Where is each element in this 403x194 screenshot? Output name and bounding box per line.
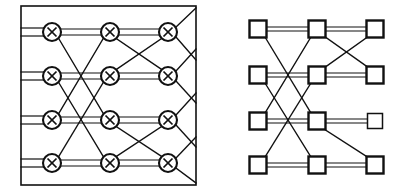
switch-node[interactable]: [309, 157, 326, 174]
switch-node[interactable]: [250, 113, 267, 130]
switch-node[interactable]: [43, 111, 61, 129]
left-network: [21, 6, 196, 185]
switch-node[interactable]: [367, 157, 384, 174]
network-diagram-svg: [0, 0, 403, 194]
switch-node[interactable]: [101, 67, 119, 85]
switch-node[interactable]: [43, 154, 61, 172]
switch-node[interactable]: [101, 23, 119, 41]
switch-node[interactable]: [250, 21, 267, 38]
switch-node[interactable]: [43, 67, 61, 85]
switch-node[interactable]: [367, 21, 384, 38]
switch-node[interactable]: [250, 67, 267, 84]
stage2-edges: [117, 29, 161, 166]
right-network: [250, 21, 384, 174]
stage1-edges: [59, 29, 103, 166]
switch-node[interactable]: [309, 21, 326, 38]
switch-node[interactable]: [43, 23, 61, 41]
external-input-lines: [21, 28, 44, 167]
stage1-edges: [265, 27, 311, 167]
figure-canvas: [0, 0, 403, 194]
switch-node[interactable]: [367, 67, 384, 84]
switch-node[interactable]: [159, 154, 177, 172]
switch-node[interactable]: [101, 154, 119, 172]
switch-node[interactable]: [159, 111, 177, 129]
switch-node[interactable]: [159, 23, 177, 41]
external-output-lines: [176, 8, 196, 183]
switch-node[interactable]: [101, 111, 119, 129]
switch-node-isolated[interactable]: [368, 114, 383, 129]
stage2-edges: [324, 27, 369, 167]
switch-node[interactable]: [250, 157, 267, 174]
switch-node[interactable]: [309, 113, 326, 130]
switch-node[interactable]: [159, 67, 177, 85]
switch-node[interactable]: [309, 67, 326, 84]
